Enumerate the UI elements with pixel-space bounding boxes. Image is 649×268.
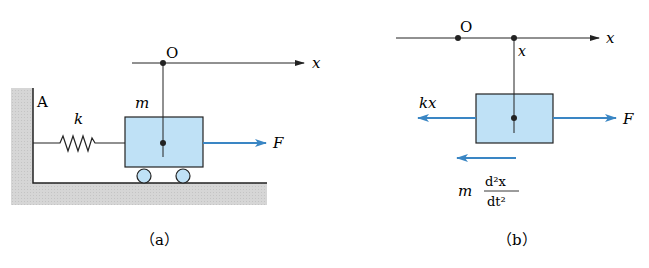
caption-a: （a） [140, 231, 179, 249]
wall-label: A [36, 93, 48, 111]
origin-label-b: O [460, 18, 472, 36]
caption-b: （b） [497, 231, 537, 249]
spring [33, 136, 125, 151]
force-label-a: F [272, 134, 284, 152]
inertial-denominator: dt² [487, 194, 506, 209]
panel-a: O x A k m F （a） [11, 44, 321, 249]
inertial-coef-label: m [458, 182, 472, 200]
axis-label-a: x [312, 54, 321, 72]
spring-label: k [74, 110, 83, 128]
wheel-left [137, 169, 151, 183]
force-label-b: F [622, 110, 634, 128]
spring-mass-diagram: O x A k m F （a） O x x kx F m d²x dt² （b） [0, 0, 649, 268]
panel-b: O x x kx F m d²x dt² （b） [396, 18, 634, 249]
inertial-numerator: d²x [485, 174, 507, 189]
axis-label-b: x [606, 29, 615, 47]
center-dot-b [511, 115, 517, 121]
spring-force-label: kx [419, 94, 437, 112]
mass-label: m [135, 94, 149, 112]
center-dot-a [160, 140, 166, 146]
position-label-b: x [518, 43, 526, 59]
wheel-right [176, 169, 190, 183]
origin-label-a: O [166, 44, 178, 62]
